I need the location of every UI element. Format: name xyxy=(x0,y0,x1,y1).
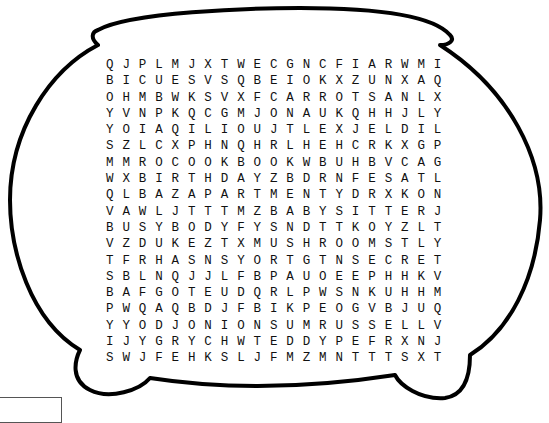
grid-letter[interactable]: T xyxy=(401,236,417,252)
grid-letter[interactable]: P xyxy=(303,301,319,317)
grid-letter[interactable]: L xyxy=(417,90,433,106)
grid-letter[interactable]: N xyxy=(335,350,351,366)
grid-letter[interactable]: J xyxy=(122,334,138,350)
grid-letter[interactable]: V xyxy=(204,73,220,89)
grid-letter[interactable]: E xyxy=(352,269,368,285)
grid-letter[interactable]: X xyxy=(172,138,188,154)
grid-letter[interactable]: B xyxy=(270,204,286,220)
grid-letter[interactable]: I xyxy=(221,318,237,334)
grid-letter[interactable]: K xyxy=(188,90,204,106)
grid-letter[interactable]: J xyxy=(270,122,286,138)
grid-letter[interactable]: A xyxy=(122,285,138,301)
grid-letter[interactable]: V xyxy=(434,269,450,285)
grid-letter[interactable]: Q xyxy=(434,301,450,317)
grid-letter[interactable]: H xyxy=(303,236,319,252)
grid-letter[interactable]: B xyxy=(106,73,122,89)
grid-letter[interactable]: H xyxy=(401,269,417,285)
grid-letter[interactable]: I xyxy=(122,73,138,89)
grid-letter[interactable]: I xyxy=(417,122,433,138)
grid-letter[interactable]: R xyxy=(139,253,155,269)
grid-letter[interactable]: Z xyxy=(254,204,270,220)
grid-letter[interactable]: O xyxy=(319,269,335,285)
grid-letter[interactable]: Y xyxy=(319,334,335,350)
grid-letter[interactable]: M xyxy=(434,285,450,301)
grid-letter[interactable]: N xyxy=(352,285,368,301)
grid-letter[interactable]: O xyxy=(270,155,286,171)
grid-letter[interactable]: O xyxy=(254,155,270,171)
grid-letter[interactable]: N xyxy=(204,318,220,334)
grid-letter[interactable]: T xyxy=(286,122,302,138)
grid-letter[interactable]: X xyxy=(335,73,351,89)
grid-letter[interactable]: C xyxy=(270,57,286,73)
grid-letter[interactable]: S xyxy=(106,350,122,366)
grid-letter[interactable]: L xyxy=(286,138,302,154)
grid-letter[interactable]: E xyxy=(401,204,417,220)
grid-letter[interactable]: D xyxy=(237,285,253,301)
grid-letter[interactable]: R xyxy=(172,334,188,350)
grid-letter[interactable]: G xyxy=(286,57,302,73)
grid-letter[interactable]: F xyxy=(122,253,138,269)
grid-letter[interactable]: Y xyxy=(155,220,171,236)
grid-letter[interactable]: U xyxy=(155,73,171,89)
grid-letter[interactable]: U xyxy=(254,122,270,138)
grid-letter[interactable]: Y xyxy=(106,106,122,122)
grid-letter[interactable]: T xyxy=(352,350,368,366)
grid-letter[interactable]: B xyxy=(155,90,171,106)
grid-letter[interactable]: D xyxy=(221,171,237,187)
grid-letter[interactable]: E xyxy=(319,138,335,154)
grid-letter[interactable]: C xyxy=(385,253,401,269)
grid-letter[interactable]: K xyxy=(417,269,433,285)
grid-letter[interactable]: B xyxy=(303,204,319,220)
grid-letter[interactable]: S xyxy=(221,350,237,366)
grid-letter[interactable]: V xyxy=(434,318,450,334)
grid-letter[interactable]: R xyxy=(319,90,335,106)
grid-letter[interactable]: X xyxy=(401,73,417,89)
grid-letter[interactable]: T xyxy=(368,350,384,366)
grid-letter[interactable]: K xyxy=(352,220,368,236)
grid-letter[interactable]: J xyxy=(254,350,270,366)
grid-letter[interactable]: J xyxy=(188,57,204,73)
grid-letter[interactable]: Q xyxy=(188,106,204,122)
grid-letter[interactable]: M xyxy=(139,90,155,106)
grid-letter[interactable]: Z xyxy=(401,220,417,236)
grid-letter[interactable]: O xyxy=(122,122,138,138)
grid-letter[interactable]: X xyxy=(335,122,351,138)
grid-letter[interactable]: H xyxy=(401,285,417,301)
grid-letter[interactable]: B xyxy=(139,171,155,187)
grid-letter[interactable]: V xyxy=(106,204,122,220)
grid-letter[interactable]: U xyxy=(155,236,171,252)
grid-letter[interactable]: P xyxy=(155,106,171,122)
grid-letter[interactable]: Y xyxy=(319,204,335,220)
grid-letter[interactable]: O xyxy=(417,187,433,203)
grid-letter[interactable]: L xyxy=(401,318,417,334)
grid-letter[interactable]: T xyxy=(286,253,302,269)
grid-letter[interactable]: Y xyxy=(122,318,138,334)
grid-letter[interactable]: T xyxy=(385,204,401,220)
grid-letter[interactable]: U xyxy=(368,73,384,89)
grid-letter[interactable]: I xyxy=(352,204,368,220)
grid-letter[interactable]: O xyxy=(335,301,351,317)
grid-letter[interactable]: B xyxy=(106,220,122,236)
grid-letter[interactable]: S xyxy=(286,236,302,252)
grid-letter[interactable]: H xyxy=(335,138,351,154)
grid-letter[interactable]: G xyxy=(417,138,433,154)
grid-letter[interactable]: T xyxy=(434,253,450,269)
grid-letter[interactable]: S xyxy=(368,318,384,334)
grid-letter[interactable]: M xyxy=(270,187,286,203)
grid-letter[interactable]: Q xyxy=(254,285,270,301)
grid-letter[interactable]: T xyxy=(434,220,450,236)
grid-letter[interactable]: O xyxy=(106,90,122,106)
grid-letter[interactable]: W xyxy=(139,204,155,220)
grid-letter[interactable]: H xyxy=(385,106,401,122)
grid-letter[interactable]: H xyxy=(188,350,204,366)
grid-letter[interactable]: H xyxy=(385,269,401,285)
grid-letter[interactable]: D xyxy=(204,301,220,317)
grid-letter[interactable]: L xyxy=(221,269,237,285)
grid-letter[interactable]: S xyxy=(335,285,351,301)
grid-letter[interactable]: J xyxy=(188,269,204,285)
grid-letter[interactable]: O xyxy=(368,220,384,236)
grid-letter[interactable]: I xyxy=(270,301,286,317)
grid-letter[interactable]: Z xyxy=(122,236,138,252)
grid-letter[interactable]: E xyxy=(319,122,335,138)
grid-letter[interactable]: C xyxy=(139,73,155,89)
